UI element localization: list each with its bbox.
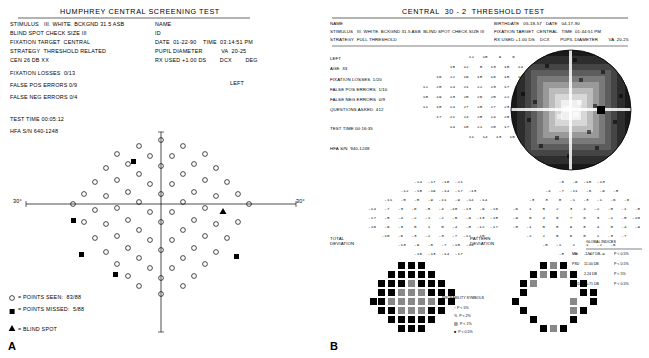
pattern-deviation-row: -4 -7 -11 -6 -9 -5 xyxy=(510,189,619,193)
total-deviation-row: -11 -5 -8 -9 -11 -9 -14 -14 xyxy=(368,198,487,202)
pattern-deviation-row: -8 -1 5 8 9 8 4 0 -4 -9 xyxy=(510,225,640,229)
panel-b-cpsd-name: CPSD xyxy=(570,282,580,286)
pattern-deviation-row: -9 0 4 6 7 6 3 -1 -5 -10 xyxy=(510,216,640,220)
threshold-row: 14 18 21 20 17 13 xyxy=(420,125,523,129)
panel-b-fixation-losses: FIXATION LOSSES 1/20 xyxy=(330,77,382,82)
panel-a-strategy-line: STRATEGY THRESHOLD RELATED xyxy=(10,48,106,54)
panel-a-legend-blind-spot: = BLIND SPOT xyxy=(18,326,57,332)
panel-b-prob-symbol-05: ■ P < 0.5% xyxy=(454,330,473,334)
panel-b-prob-symbol-1: ▨ P < 1% xyxy=(454,322,472,326)
panel-b-questions-asked: QUESTIONS ASKED 412 xyxy=(330,107,384,112)
panel-b-cpsd-p: P < 0.5% xyxy=(614,282,629,286)
panel-b-header-rule xyxy=(332,45,632,47)
panel-a-title: HUMPHREY CENTRAL SCREENING TEST xyxy=(60,7,220,16)
panel-b-serial-number: HFA S/N 940-1248 xyxy=(330,146,370,151)
panel-a-axis-label-left: 30° xyxy=(13,198,22,204)
panel-a-name-field: NAME xyxy=(155,21,171,27)
total-deviation-row: -17 -8 -4 -2 -1 -2 -5 -9 -13 -18 xyxy=(368,216,498,220)
panel-b-cpsd-value: 10.71 DB xyxy=(584,282,599,286)
panel-b-title-rule xyxy=(332,17,632,19)
panel-b-rx-pupil-va: RX USED +1.00 DS DCX PUPIL DIAMETER VA 2… xyxy=(494,37,628,42)
total-deviation-row: -16 -13 -14 -17 xyxy=(368,252,463,256)
panel-b-letter: B xyxy=(330,340,338,352)
panel-b-md-p: P < 0.5% xyxy=(614,252,629,256)
panel-b-age: AGE 33 xyxy=(330,66,347,71)
pattern-deviation-row: -3 3 0 -1 -3 -1 -6 -6 xyxy=(510,198,629,202)
panel-b-probability-symbols-label: PROBABILITY SYMBOLS xyxy=(442,296,484,300)
panel-b-sf-name: SF xyxy=(572,272,577,276)
panel-a-false-neg: FALSE NEG ERRORS 0/4 xyxy=(10,94,78,100)
panel-a-test-time: TEST TIME 00:05:12 xyxy=(10,116,64,122)
panel-b-strategy-line: STRATEGY FULL THRESHOLD xyxy=(330,37,397,42)
total-deviation-row: -14 -7 -3 -6 -5 -4 -10 -13 -9 -16 xyxy=(368,207,498,211)
panel-b-global-indices-rule xyxy=(586,248,646,250)
panel-a-axis-label-right: 30° xyxy=(296,198,305,204)
panel-b-sf-p: P < 5% xyxy=(614,272,626,276)
panel-a-legend-points-missed: = POINTS MISSED: 5/88 xyxy=(18,306,84,312)
panel-a-fixation-losses: FIXATION LOSSES 0/13 xyxy=(10,70,75,76)
panel-b-total-deviation-label: TOTAL DEVIATION xyxy=(330,236,354,246)
total-deviation-row: -16 -9 -3 0 1 0 -4 -8 -12 -17 xyxy=(368,225,498,229)
panel-b-prob-symbol-2: % P < 2% xyxy=(454,314,471,318)
panel-a-id-field: ID xyxy=(155,30,161,36)
panel-b-threshold-test: CENTRAL 30 - 2 THRESHOLD TEST NAME STIMU… xyxy=(324,0,649,358)
threshold-row: 15 12 8 13 10 14 xyxy=(420,65,523,69)
panel-b-prob-symbol-5: :: P < 5% xyxy=(454,306,469,310)
total-deviation-row: -10 -6 -3 -2 -3 -7 -11 -15 xyxy=(368,234,485,238)
panel-b-false-neg: FALSE NEG ERRORS 0/9 xyxy=(330,97,385,102)
panel-a-legend-points-seen: = POINTS SEEN: 83/88 xyxy=(18,294,81,300)
panel-b-md-name: MD xyxy=(572,252,578,256)
panel-a-screening-test: HUMPHREY CENTRAL SCREENING TEST STIMULUS… xyxy=(0,0,324,358)
panel-b-title: CENTRAL 30 - 2 THRESHOLD TEST xyxy=(402,7,545,16)
threshold-row: 12 10 9 6 xyxy=(420,55,515,59)
panel-b-name-field: NAME xyxy=(330,21,343,26)
panel-b-fixation-target-time: FIXATION TARGET CENTRAL TIME 01:44:51 PM xyxy=(494,29,601,34)
panel-a-fixation-target-line: FIXATION TARGET CENTRAL xyxy=(10,39,90,45)
threshold-row: 11 14 13 10 xyxy=(420,135,515,139)
panel-b-global-indices-label: GLOBAL INDICES xyxy=(586,240,616,244)
panel-b-md-value: -17.07 DB xyxy=(584,252,600,256)
pattern-deviation-row: -6 1 5 2 3 4 -2 -5 -1 -8 xyxy=(510,207,640,211)
panel-b-sf-value: 2.24 DB xyxy=(584,272,597,276)
panel-b-psd-name: PSD xyxy=(572,262,579,266)
panel-a-visual-field-plot xyxy=(8,142,318,352)
panel-b-psd-value: 11.00 DB xyxy=(584,262,599,266)
panel-a-blindspot-line: BLIND SPOT CHECK SIZE III xyxy=(10,30,87,36)
panel-a-rx-used: RX USED +1.00 DS DCX DEG xyxy=(155,57,258,63)
panel-a-pupil-va: PUPIL DIAMETER VA 20-25 xyxy=(155,48,246,54)
panel-b-birthdate-date: BIRTHDATE 05-18-57 DATE 04-17-90 xyxy=(494,21,580,26)
panel-b-false-pos: FALSE POS ERRORS 1/10 xyxy=(330,87,387,92)
panel-b-stimulus-line: STIMULUS III. WHITE. BCKGND 31.5 ASB BLI… xyxy=(330,29,484,34)
total-deviation-row: -12 -15 -19 -14 -17 -13 xyxy=(368,189,477,193)
panel-a-cen-line: CEN 26 DB XX xyxy=(10,57,49,63)
total-deviation-row: -13 -9 -6 -7 -10 -14 xyxy=(368,243,474,247)
panel-b-test-time: TEST TIME 00:16:35 xyxy=(330,126,373,131)
pattern-deviation-row: -2 2 5 6 5 1 -3 -7 xyxy=(510,234,627,238)
panel-a-date-time: DATE 01-22-90 TIME 03:14:51 PM xyxy=(155,39,253,45)
panel-b-greyscale-map xyxy=(509,48,639,178)
panel-a-title-rule xyxy=(18,17,258,19)
panel-a-serial-number: HFA S/N 640-1248 xyxy=(10,128,58,134)
panel-a-stimulus-line: STIMULUS III. WHITE. BCKGND 31.5 ASB xyxy=(10,21,124,27)
panel-b-eye-label: LEFT xyxy=(330,56,341,61)
total-deviation-row: -14 -17 -18 -21 xyxy=(368,180,463,184)
panel-a-false-pos: FALSE POS ERRORS 0/9 xyxy=(10,82,77,88)
pattern-deviation-row: -6 -9 -10 -13 xyxy=(510,180,605,184)
panel-a-letter: A xyxy=(8,340,16,352)
panel-b-psd-p: P < 0.5% xyxy=(614,262,629,266)
panel-a-eye-label: LEFT xyxy=(230,80,244,86)
panel-b-pattern-deviation-label: PATTERN DEVIATION xyxy=(470,236,494,246)
